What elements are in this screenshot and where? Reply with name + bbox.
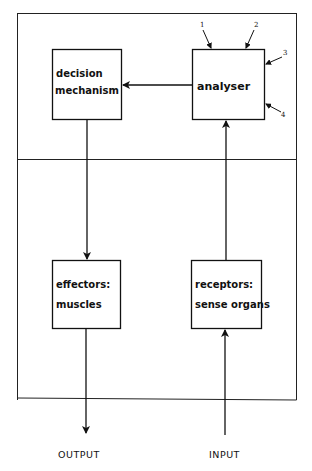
input-number-3: 3 (283, 49, 287, 57)
receptors-box (192, 261, 262, 329)
input-number-4: 4 (281, 111, 285, 119)
effectors-box (53, 261, 121, 329)
effectors-label-2: muscles (56, 300, 102, 310)
diagram-lines (0, 0, 312, 471)
input-number-2: 2 (254, 21, 258, 29)
input-label: INPUT (209, 449, 240, 460)
receptors-label-2: sense organs (195, 300, 270, 310)
effectors-label-1: effectors: (56, 280, 110, 290)
analyser-label: analyser (197, 81, 250, 92)
input-number-1: 1 (200, 21, 204, 29)
decision-label-1: decision (56, 69, 103, 79)
receptors-label-1: receptors: (195, 280, 253, 290)
decision-label-2: mechanism (55, 86, 119, 96)
output-label: OUTPUT (58, 449, 100, 460)
